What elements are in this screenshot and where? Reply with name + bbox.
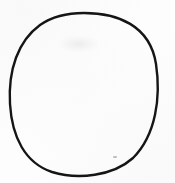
circle-figure: hand-drawn circle <box>0 0 175 183</box>
figure-canvas: hand-drawn circle <box>0 0 175 183</box>
circle-outline-shape <box>10 13 158 176</box>
